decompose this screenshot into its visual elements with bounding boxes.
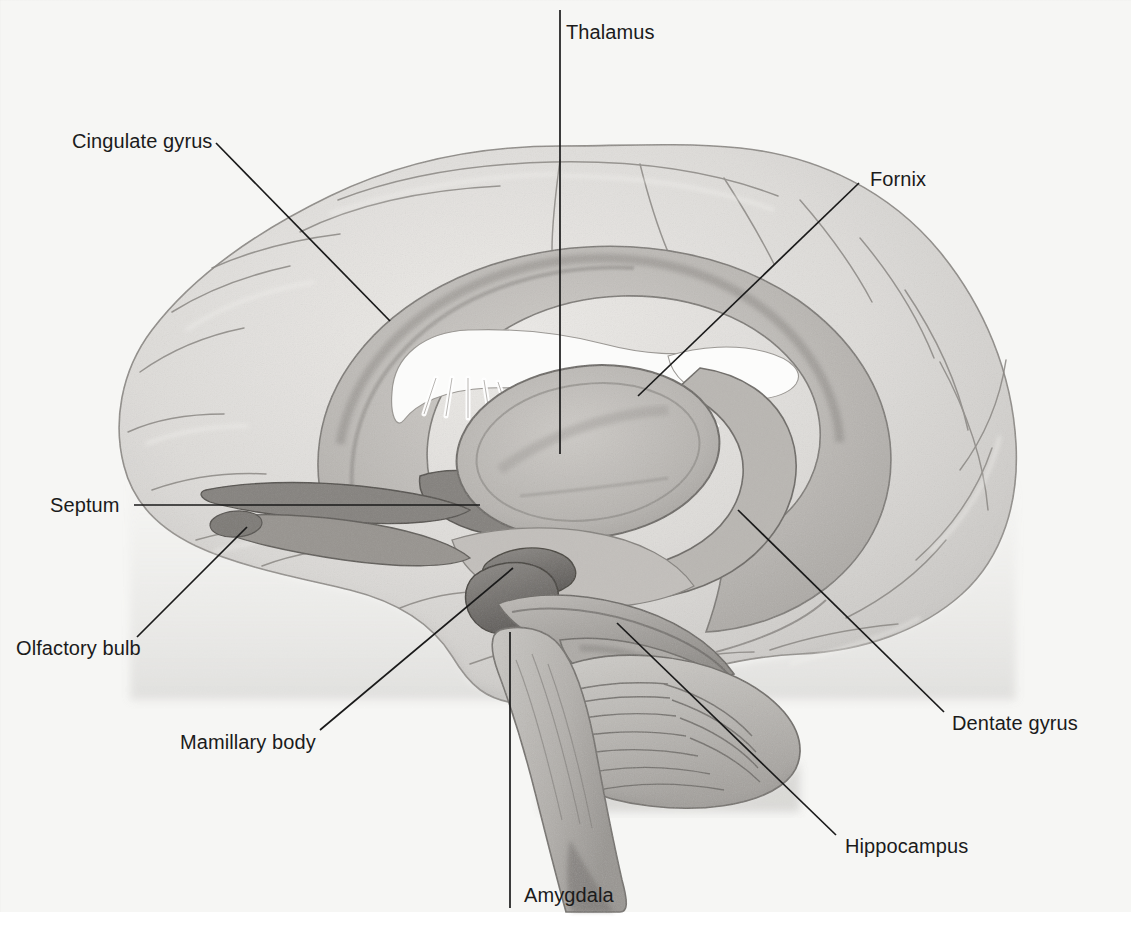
label-septum: Septum xyxy=(50,495,120,515)
label-fornix: Fornix xyxy=(870,169,926,189)
label-dentate-gyrus: Dentate gyrus xyxy=(952,713,1078,733)
label-cingulate-gyrus: Cingulate gyrus xyxy=(72,131,212,151)
label-amygdala: Amygdala xyxy=(524,885,614,905)
anatomy-figure: ThalamusCingulate gyrusFornixSeptumOlfac… xyxy=(0,0,1131,948)
label-olfactory-bulb: Olfactory bulb xyxy=(16,638,141,658)
label-hippocampus: Hippocampus xyxy=(845,836,968,856)
label-thalamus: Thalamus xyxy=(566,22,655,42)
label-mamillary-body: Mamillary body xyxy=(180,732,316,752)
